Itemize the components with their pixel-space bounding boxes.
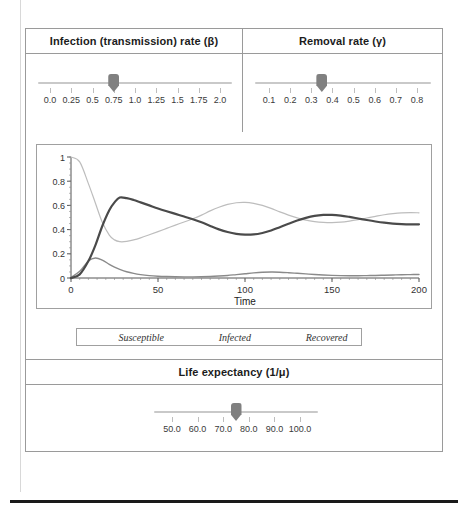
svg-text:Time: Time xyxy=(234,296,256,307)
footer-rule xyxy=(10,500,458,503)
slider-tick-mark xyxy=(300,417,301,422)
legend-label-recovered: Recovered xyxy=(306,332,348,343)
slider-tick-label: 0.25 xyxy=(62,95,80,105)
slider-tick-label: 0.1 xyxy=(263,95,276,105)
panel-title-removal-rate: Removal rate (γ) xyxy=(243,29,442,54)
slider-tick-mark xyxy=(172,417,173,422)
legend-label-susceptible: Susceptible xyxy=(118,332,164,343)
gamma-slider-track[interactable] xyxy=(255,82,431,84)
plot-area: 00.20.40.60.81050100150200Time xyxy=(36,144,432,309)
slider-tick-mark xyxy=(249,417,250,422)
svg-text:0.2: 0.2 xyxy=(52,249,65,259)
slider-tick-label: 80.0 xyxy=(240,424,258,434)
legend-entry-recovered: Recovered xyxy=(278,332,348,343)
page-margin-guide xyxy=(20,0,21,492)
slider-tick-label: 0.0 xyxy=(44,95,57,105)
panel-title-life-expectancy: Life expectancy (1/μ) xyxy=(26,360,442,385)
slider-area-beta: 0.00.250.50.751.01.251.51.752.0 xyxy=(26,54,242,132)
panel-title-infection-rate: Infection (transmission) rate (β) xyxy=(26,29,242,54)
gamma-slider-tick-labels: 0.10.20.30.40.50.60.70.8 xyxy=(255,95,431,107)
chart-legend: Susceptible Infected Recovered xyxy=(76,328,362,346)
slider-tick-mark xyxy=(223,417,224,422)
slider-tick-label: 0.6 xyxy=(368,95,381,105)
slider-area-life-expectancy: 50.060.070.080.090.0100.0 xyxy=(26,385,442,451)
slider-tick-mark xyxy=(290,88,291,93)
life-expectancy-slider-tick-labels: 50.060.070.080.090.0100.0 xyxy=(154,424,318,436)
slider-tick-label: 1.25 xyxy=(147,95,165,105)
svg-text:200: 200 xyxy=(411,284,427,295)
slider-tick-mark xyxy=(332,88,333,93)
legend-entry-susceptible: Susceptible xyxy=(90,332,164,343)
slider-tick-mark xyxy=(417,88,418,93)
slider-tick-mark xyxy=(274,417,275,422)
slider-tick-mark xyxy=(220,88,221,93)
sir-model-dashboard: Infection (transmission) rate (β) 0.00.2… xyxy=(25,28,443,480)
svg-text:150: 150 xyxy=(324,284,340,295)
slider-tick-label: 50.0 xyxy=(163,424,181,434)
sir-line-chart: 00.20.40.60.81050100150200Time xyxy=(37,145,431,308)
slider-tick-mark xyxy=(198,417,199,422)
slider-area-gamma: 0.10.20.30.40.50.60.70.8 xyxy=(243,54,442,132)
slider-tick-mark xyxy=(71,88,72,93)
slider-tick-mark xyxy=(135,88,136,93)
slider-tick-label: 0.2 xyxy=(284,95,297,105)
parameter-sliders-row: Infection (transmission) rate (β) 0.00.2… xyxy=(25,28,443,132)
slider-tick-label: 0.3 xyxy=(305,95,318,105)
slider-tick-label: 2.0 xyxy=(214,95,227,105)
svg-text:1: 1 xyxy=(60,153,65,163)
legend-label-infected: Infected xyxy=(219,332,251,343)
slider-tick-label: 1.0 xyxy=(129,95,142,105)
slider-tick-mark xyxy=(199,88,200,93)
svg-text:0: 0 xyxy=(60,274,65,284)
slider-tick-label: 1.5 xyxy=(171,95,184,105)
slider-tick-label: 70.0 xyxy=(214,424,232,434)
svg-text:0.4: 0.4 xyxy=(52,225,65,235)
gamma-slider-ticks xyxy=(255,88,431,93)
svg-text:100: 100 xyxy=(237,284,253,295)
panel-infection-rate: Infection (transmission) rate (β) 0.00.2… xyxy=(25,28,243,132)
slider-tick-mark xyxy=(269,88,270,93)
slider-tick-label: 0.75 xyxy=(105,95,123,105)
beta-slider-tick-labels: 0.00.250.50.751.01.251.51.752.0 xyxy=(38,95,232,107)
slider-tick-label: 0.8 xyxy=(411,95,424,105)
slider-tick-label: 0.5 xyxy=(86,95,99,105)
slider-tick-label: 1.75 xyxy=(190,95,208,105)
beta-slider-ticks xyxy=(38,88,232,93)
panel-removal-rate: Removal rate (γ) 0.10.20.30.40.50.60.70.… xyxy=(243,28,443,132)
slider-tick-mark xyxy=(156,88,157,93)
svg-text:0.8: 0.8 xyxy=(52,177,65,187)
legend-entry-infected: Infected xyxy=(191,332,251,343)
slider-tick-mark xyxy=(354,88,355,93)
slider-tick-mark xyxy=(93,88,94,93)
panel-sir-chart: 00.20.40.60.81050100150200Time Susceptib… xyxy=(25,132,443,360)
svg-text:0.6: 0.6 xyxy=(52,201,65,211)
slider-tick-label: 0.7 xyxy=(390,95,403,105)
slider-tick-mark xyxy=(178,88,179,93)
slider-tick-label: 100.0 xyxy=(289,424,312,434)
slider-tick-label: 90.0 xyxy=(266,424,284,434)
panel-life-expectancy: Life expectancy (1/μ) 50.060.070.080.090… xyxy=(25,360,443,452)
slider-tick-mark xyxy=(396,88,397,93)
beta-slider-track[interactable] xyxy=(38,82,232,84)
slider-tick-mark xyxy=(375,88,376,93)
slider-tick-mark xyxy=(311,88,312,93)
svg-text:50: 50 xyxy=(153,284,164,295)
svg-text:0: 0 xyxy=(68,284,73,295)
slider-tick-label: 0.5 xyxy=(347,95,360,105)
slider-tick-label: 0.4 xyxy=(326,95,339,105)
slider-tick-mark xyxy=(50,88,51,93)
slider-tick-label: 60.0 xyxy=(189,424,207,434)
